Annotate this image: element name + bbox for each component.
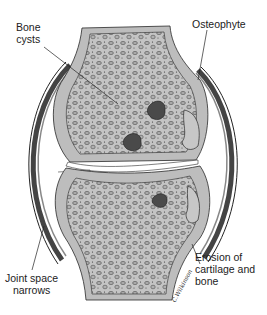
- label-line: Joint space: [5, 272, 58, 284]
- leader-joint-space: [32, 226, 44, 270]
- label-line: bone: [195, 275, 255, 287]
- upper-bone: [53, 26, 208, 162]
- label-line: Erosion of: [195, 251, 255, 263]
- osteoarthritis-diagram: Bone cysts Osteophyte Joint space narrow…: [0, 0, 267, 315]
- label-joint-space-narrows: Joint space narrows: [5, 272, 58, 296]
- label-line: cysts: [16, 33, 41, 45]
- label-bone-cysts: Bone cysts: [16, 21, 41, 45]
- label-line: Osteophyte: [192, 18, 246, 30]
- label-osteophyte: Osteophyte: [192, 18, 246, 30]
- label-erosion: Erosion of cartilage and bone: [195, 251, 255, 287]
- label-line: narrows: [5, 284, 58, 296]
- label-line: Bone: [16, 21, 41, 33]
- label-line: cartilage and: [195, 263, 255, 275]
